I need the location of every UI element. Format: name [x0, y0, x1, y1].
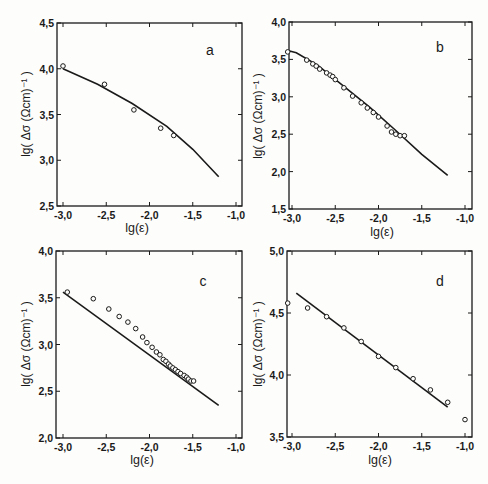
fit-line	[288, 50, 448, 175]
x-tick-label: -2,0	[140, 209, 158, 221]
x-tick-label: -1,5	[184, 441, 202, 453]
x-axis-label: lg(ε)	[125, 221, 149, 235]
data-point	[324, 314, 329, 319]
y-tick-label: 3,0	[39, 154, 54, 166]
x-axis-label: lg(ε)	[130, 453, 154, 467]
y-tick-label: 3,5	[269, 431, 284, 443]
panel-c: -3,0-2,5-2,0-1,5-1,02,02,53,03,54,0lg(ε)…	[19, 245, 245, 467]
x-tick-label: -1,0	[227, 209, 245, 221]
y-tick-label: 3,0	[38, 339, 53, 351]
data-point	[376, 115, 381, 120]
y-tick-label: 2,5	[39, 200, 54, 212]
panel-label: b	[436, 39, 444, 55]
panel-label: a	[206, 42, 214, 58]
fit-line	[63, 292, 219, 405]
x-tick-label: -3,0	[54, 441, 72, 453]
data-point	[285, 301, 290, 306]
data-point	[317, 67, 322, 72]
x-tick-label: -1,0	[456, 212, 474, 224]
data-point	[359, 339, 364, 344]
data-point	[145, 340, 150, 345]
y-tick-label: 4,5	[269, 307, 284, 319]
data-point	[394, 365, 399, 370]
x-tick-label: -3,0	[283, 440, 301, 452]
y-tick-label: 4,0	[271, 16, 286, 28]
fit-line	[296, 293, 447, 407]
data-point	[133, 326, 138, 331]
data-point	[158, 353, 163, 358]
y-tick-label: 4,5	[39, 17, 54, 29]
y-tick-label: 5,0	[269, 245, 284, 257]
data-point	[359, 101, 364, 106]
x-tick-label: -2,0	[369, 212, 387, 224]
data-point	[285, 50, 290, 55]
y-tick-label: 4,0	[38, 245, 53, 257]
y-tick-label: 2,0	[271, 166, 286, 178]
y-tick-label: 4,0	[269, 369, 284, 381]
panel-label: d	[436, 273, 444, 289]
data-point	[333, 77, 338, 82]
x-tick-label: -1,5	[413, 212, 431, 224]
fit-line	[63, 69, 219, 177]
data-point	[305, 306, 310, 311]
y-axis-label: lg( Δσ (Ωcm)⁻¹ )	[19, 71, 33, 157]
plot-frame	[287, 251, 472, 437]
x-axis-label: lg(ε)	[368, 453, 392, 467]
data-point	[342, 86, 347, 91]
data-point	[158, 126, 163, 131]
data-point	[117, 314, 122, 319]
x-tick-label: -2,5	[97, 209, 115, 221]
data-point	[371, 110, 376, 115]
data-point	[191, 379, 196, 384]
x-axis: -3,0-2,5-2,0-1,5-1,0	[283, 251, 474, 452]
data-point	[411, 376, 416, 381]
data-point	[463, 417, 468, 422]
x-tick-label: -2,0	[369, 440, 387, 452]
x-tick-label: -1,5	[184, 209, 202, 221]
panel-label: c	[200, 273, 207, 289]
x-tick-label: -1,5	[413, 440, 431, 452]
x-tick-label: -1,0	[456, 440, 474, 452]
y-axis-label: lg( Δσ (Ωcm)⁻¹ )	[251, 73, 265, 159]
plot-frame	[56, 251, 242, 438]
y-tick-label: 2,5	[38, 385, 53, 397]
data-point	[385, 124, 390, 129]
y-tick-label: 3,5	[271, 53, 286, 65]
x-tick-label: -2,5	[326, 440, 344, 452]
data-point	[171, 133, 176, 138]
data-point	[102, 82, 107, 87]
x-axis: -3,0-2,5-2,0-1,5-1,0	[283, 22, 474, 224]
data-points	[285, 50, 406, 138]
data-point	[428, 388, 433, 393]
data-points	[65, 290, 196, 384]
panel-b: -3,0-2,5-2,0-1,5-1,01,52,02,53,03,54,0lg…	[251, 16, 474, 239]
data-point	[132, 108, 137, 113]
x-axis-label: lg(ε)	[370, 225, 394, 239]
x-tick-label: -2,5	[97, 441, 115, 453]
x-axis: -3,0-2,5-2,0-1,5-1,0	[54, 23, 245, 221]
y-tick-label: 2,5	[271, 128, 286, 140]
y-tick-label: 3,0	[271, 91, 286, 103]
panel-d: -3,0-2,5-2,0-1,5-1,03,54,04,55,0lg(ε)lg(…	[251, 245, 474, 467]
data-point	[150, 345, 155, 350]
y-axis-label: lg( Δσ (Ωcm)⁻¹ )	[19, 301, 33, 387]
y-tick-label: 4,0	[39, 63, 54, 75]
panel-a: -3,0-2,5-2,0-1,5-1,02,53,03,54,04,5lg(ε)…	[19, 17, 245, 235]
data-point	[65, 290, 70, 295]
data-point	[140, 335, 145, 340]
y-axis-label: lg( Δσ (Ωcm)⁻¹ )	[251, 301, 265, 387]
y-tick-label: 1,5	[271, 203, 286, 215]
data-point	[402, 133, 407, 138]
x-axis: -3,0-2,5-2,0-1,5-1,0	[54, 251, 245, 453]
data-point	[91, 296, 96, 301]
y-tick-label: 3,5	[38, 292, 53, 304]
figure-2x2-panels: -3,0-2,5-2,0-1,5-1,02,53,03,54,04,5lg(ε)…	[0, 0, 488, 484]
data-point	[61, 64, 66, 69]
data-point	[342, 326, 347, 331]
x-tick-label: -1,0	[227, 441, 245, 453]
x-tick-label: -3,0	[54, 209, 72, 221]
data-point	[126, 320, 131, 325]
data-point	[365, 106, 370, 111]
x-tick-label: -2,5	[326, 212, 344, 224]
data-point	[107, 307, 112, 312]
